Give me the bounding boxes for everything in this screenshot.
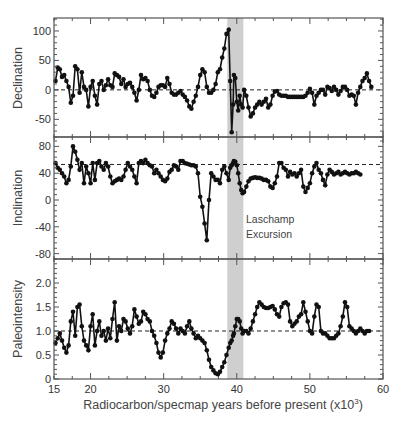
data-point [176,168,181,173]
data-point [71,144,76,149]
data-point [270,94,275,99]
data-point [246,105,251,110]
data-point [156,350,161,355]
data-point [336,331,341,336]
data-point [358,85,363,90]
data-point [244,184,249,189]
y-tick-label: 0 [45,194,51,206]
data-point [167,326,172,331]
data-point [270,186,275,191]
data-point [242,190,247,195]
data-point [90,79,95,84]
data-point [104,338,109,343]
data-point [277,314,282,319]
data-point [75,158,80,163]
data-point [130,85,135,90]
data-point [121,174,126,179]
data-point [77,302,82,307]
data-point [88,181,93,186]
panel-frame [54,137,383,259]
data-point [343,300,348,305]
data-point [134,314,139,319]
data-point [82,338,87,343]
data-point [236,171,241,176]
data-point [236,108,241,113]
data-point [242,88,247,93]
data-point [319,171,324,176]
data-point [185,98,190,103]
data-point [130,168,135,173]
ylabel-paleointensity: Paleointensity [11,279,25,358]
data-point [205,238,210,243]
x-tick-label: 60 [377,383,389,395]
data-point [117,75,122,80]
data-point [71,94,76,99]
data-point [84,88,89,93]
data-point [358,172,363,177]
data-point [286,174,291,179]
data-point [229,130,234,135]
data-point [93,178,98,183]
data-point [121,77,126,82]
data-point [338,324,343,329]
data-point [69,319,74,324]
data-point [303,310,308,315]
data-point [58,331,63,336]
y-tick-label: 1.5 [36,301,51,313]
data-point [224,171,229,176]
data-point [338,89,343,94]
y-tick-label: 0 [45,84,51,96]
data-point [213,82,218,87]
data-point [253,312,258,317]
data-point [169,168,174,173]
data-point [69,101,74,106]
data-point [266,179,271,184]
data-point [97,159,102,164]
data-point [163,85,168,90]
data-point [86,171,91,176]
data-point [207,198,212,203]
data-point [123,319,128,324]
data-point [163,338,168,343]
data-point [108,336,113,341]
data-point [264,96,269,101]
x-tick-label: 30 [158,383,170,395]
data-point [93,343,98,348]
y-tick-label: 100 [33,25,51,37]
data-point [62,346,67,351]
data-point [310,331,315,336]
data-point [134,181,139,186]
data-point [128,331,133,336]
y-tick-label: 80 [39,140,51,152]
data-point [237,319,242,324]
data-point [310,91,315,96]
data-point [220,365,225,370]
data-point [165,176,170,181]
data-point [345,88,350,93]
data-point [90,161,95,166]
data-point [172,322,177,327]
data-point [80,161,85,166]
data-point [275,174,280,179]
data-point [97,319,102,324]
data-point [194,164,199,169]
x-tick-label: 20 [84,383,96,395]
data-point [80,324,85,329]
data-point [316,305,321,310]
data-point [119,82,124,87]
xlabel-main: Radiocarbon/specmap years before present… [83,398,354,412]
data-point [99,79,104,84]
data-point [305,319,310,324]
data-point [369,85,374,90]
data-point [152,334,157,339]
data-point [325,172,330,177]
data-point [235,99,240,104]
data-point [202,70,207,75]
data-line [56,302,370,374]
data-point [84,343,89,348]
y-tick-label: 0.5 [36,349,51,361]
data-point [126,326,131,331]
data-point [82,181,87,186]
panel-frame [54,18,383,137]
data-point [128,81,133,86]
